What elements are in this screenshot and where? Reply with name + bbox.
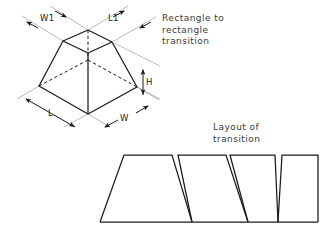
- ext-w1-outer: [50, 6, 88, 30]
- ext-w-right: [137, 87, 159, 100]
- note-layout-transition: Layout of transition: [213, 122, 260, 145]
- trapezoid-4: [278, 155, 318, 222]
- ext-l-right: [64, 114, 88, 127]
- note-rectangle-transition: Rectangle to rectangle transition: [162, 13, 224, 48]
- dim-line-w1-right: [55, 11, 66, 17]
- layout-trapezoids: [100, 155, 318, 222]
- dimension-label-h: H: [146, 77, 153, 87]
- dimension-label-l1: L1: [108, 13, 119, 23]
- dimension-label-w: W: [120, 113, 129, 123]
- trapezoid-1: [100, 155, 192, 222]
- dimension-label-w1: W1: [40, 13, 54, 23]
- ext-w-left: [88, 114, 110, 127]
- dim-line-w2: [136, 106, 148, 113]
- dimension-label-l: L: [48, 108, 53, 118]
- drawing-canvas: Rectangle to rectangle transition Layout…: [0, 0, 330, 237]
- ext-l-left: [17, 86, 39, 99]
- dim-line-w: [105, 120, 118, 127]
